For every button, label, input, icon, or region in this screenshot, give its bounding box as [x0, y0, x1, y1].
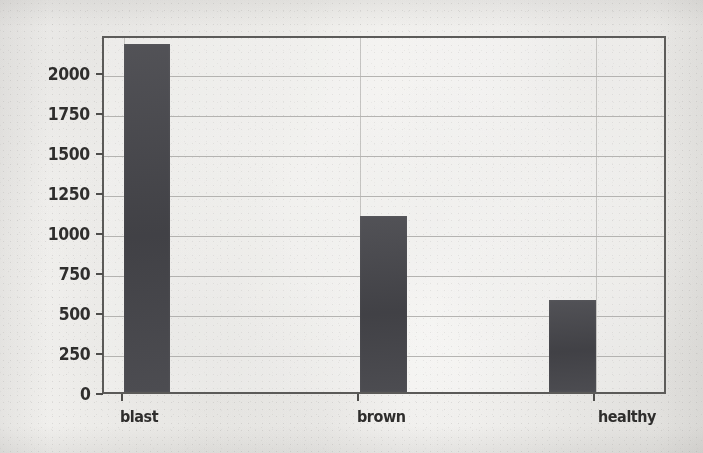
- y-axis-tick-label: 2000: [48, 64, 90, 84]
- gridline-vertical: [596, 38, 597, 392]
- bar-blast: [124, 44, 170, 392]
- y-axis-tick-mark: [96, 193, 103, 195]
- x-axis-tick-mark: [121, 394, 123, 401]
- y-axis-tick-mark: [96, 113, 103, 115]
- y-axis-tick-label: 1750: [48, 104, 90, 124]
- x-axis-tick-label: blast: [120, 407, 158, 426]
- y-axis-tick-label: 1250: [48, 184, 90, 204]
- y-axis-tick-mark: [96, 233, 103, 235]
- bar-chart-scan: 025050075010001250150017502000blastbrown…: [0, 0, 703, 453]
- x-axis-tick-mark: [593, 394, 595, 401]
- y-axis-tick-label: 750: [58, 264, 90, 284]
- bar-healthy: [549, 300, 596, 392]
- x-axis-tick-label: healthy: [598, 407, 656, 426]
- y-axis-tick-mark: [96, 393, 103, 395]
- y-axis-tick-mark: [96, 73, 103, 75]
- x-axis-tick-mark: [357, 394, 359, 401]
- x-axis-tick-label: brown: [357, 407, 406, 426]
- plot-area: [102, 36, 666, 394]
- y-axis-tick-mark: [96, 353, 103, 355]
- gridline-horizontal: [104, 156, 664, 157]
- y-axis-tick-label: 0: [79, 384, 90, 404]
- gridline-horizontal: [104, 76, 664, 77]
- y-axis-tick-mark: [96, 273, 103, 275]
- gridline-horizontal: [104, 196, 664, 197]
- y-axis-tick-label: 500: [58, 304, 90, 324]
- y-axis-tick-label: 1000: [48, 224, 90, 244]
- gridline-horizontal: [104, 116, 664, 117]
- y-axis-tick-label: 1500: [48, 144, 90, 164]
- y-axis-tick-mark: [96, 153, 103, 155]
- y-axis-tick-mark: [96, 313, 103, 315]
- y-axis-tick-label: 250: [58, 344, 90, 364]
- bar-brown: [360, 216, 407, 392]
